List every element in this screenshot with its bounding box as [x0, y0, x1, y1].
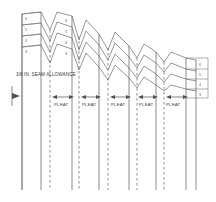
left-layer-number-6: 6	[25, 17, 27, 21]
mid-layer-number-4: 4	[65, 41, 67, 45]
pleat-marker-1: PLEAT	[52, 95, 74, 107]
pleat-arrow-head-left-5	[166, 95, 171, 99]
left-stack-rule-1	[22, 12, 41, 14]
grain-arrow-head	[12, 93, 20, 99]
left-stack-rule-3	[22, 34, 41, 36]
right-layer-stack-group	[186, 58, 208, 98]
fabric-wave-group	[22, 12, 196, 91]
pleat-label-4: PLEAT	[139, 102, 154, 107]
pattern-diagram-root: 3/8 IN. SEAM ALLOWANCE PLEAT PLEAT PLEAT…	[0, 0, 216, 202]
right-layer-number-3: 3	[199, 93, 201, 97]
pleat-arrow-head-left-2	[81, 95, 86, 99]
mid-layer-number-3: 3	[65, 52, 67, 56]
pleat-arrow-head-left-3	[110, 95, 115, 99]
fold-line-group	[22, 12, 196, 190]
pleat-label-1: PLEAT	[54, 102, 69, 107]
pleat-marker-3: PLEAT	[110, 95, 131, 107]
pleat-marker-2: PLEAT	[81, 95, 101, 107]
left-stack-rule-2	[22, 23, 41, 25]
pleat-arrow-head-right-3	[126, 95, 131, 99]
right-layer-number-4: 4	[199, 83, 201, 87]
pleat-arrow-head-right-2	[96, 95, 101, 99]
right-layer-number-group: 6 5 4 3	[199, 63, 201, 97]
pleat-arrow-head-left-4	[138, 95, 143, 99]
seam-allowance-label: 3/8 IN. SEAM ALLOWANCE	[16, 72, 76, 77]
left-layer-number-3: 3	[25, 50, 27, 54]
grain-direction-arrow	[12, 86, 20, 106]
right-layer-number-5: 5	[199, 73, 201, 77]
pleat-label-2: PLEAT	[82, 102, 97, 107]
mid-layer-number-5: 5	[65, 30, 67, 34]
right-layer-number-6: 6	[199, 63, 201, 67]
pattern-diagram-svg: 3/8 IN. SEAM ALLOWANCE PLEAT PLEAT PLEAT…	[0, 0, 216, 202]
left-layer-number-4: 4	[25, 39, 27, 43]
pleat-label-5: PLEAT	[166, 102, 181, 107]
pleat-label-3: PLEAT	[111, 102, 126, 107]
mid-layer-number-6: 6	[65, 19, 67, 23]
pleat-arrow-head-right-5	[183, 95, 188, 99]
left-layer-number-5: 5	[25, 28, 27, 32]
left-stack-rule-4	[22, 45, 41, 47]
pleat-marker-4: PLEAT	[138, 95, 158, 107]
pleat-arrow-head-right-4	[153, 95, 158, 99]
pleat-arrow-head-left-1	[52, 95, 57, 99]
pleat-marker-5: PLEAT	[166, 95, 188, 107]
pleat-arrow-head-right-1	[69, 95, 74, 99]
